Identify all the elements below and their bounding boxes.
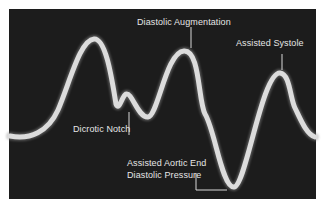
label-dicrotic-notch: Dicrotic Notch (73, 124, 130, 135)
label-assisted-aortic-end-line2: Diastolic Pressure (127, 170, 201, 181)
label-assisted-systole: Assisted Systole (236, 38, 304, 49)
label-assisted-aortic-end-line1: Assisted Aortic End (127, 158, 206, 169)
label-diastolic-augmentation: Diastolic Augmentation (137, 17, 231, 28)
